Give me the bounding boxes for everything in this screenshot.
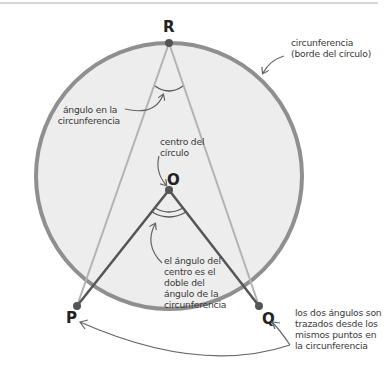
point-label-o: O <box>167 171 180 189</box>
label-circumference: circunferencia (borde del círculo) <box>291 37 371 59</box>
arrow-same-points <box>80 322 290 356</box>
label-same-points: los dos ángulos son trazados desde los m… <box>295 307 384 351</box>
label-angle-at-circumference: ángulo en la circunferencia <box>58 104 120 126</box>
circle-theorem-diagram: R O P Q circunferencia (borde del círcul… <box>0 0 388 378</box>
point-q <box>255 302 263 310</box>
point-r <box>165 39 173 47</box>
point-label-p: P <box>66 309 77 327</box>
point-label-r: R <box>163 18 175 36</box>
arrow-circumference <box>263 56 284 73</box>
